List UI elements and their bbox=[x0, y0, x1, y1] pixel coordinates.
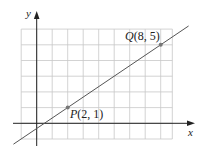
x-axis bbox=[13, 121, 195, 127]
point-q-label: Q(8, 5) bbox=[125, 29, 160, 43]
grid bbox=[21, 29, 172, 139]
point-p-coords: (2, 1) bbox=[77, 107, 103, 121]
y-axis-label: y bbox=[25, 7, 31, 19]
coordinate-plane-chart: y x P(2, 1) Q(8, 5) bbox=[0, 0, 209, 147]
point-q bbox=[159, 43, 163, 47]
point-q-coords: (8, 5) bbox=[134, 29, 160, 43]
y-axis bbox=[34, 11, 40, 146]
x-axis-label: x bbox=[187, 126, 193, 138]
point-q-letter: Q bbox=[125, 29, 134, 43]
point-p-label: P(2, 1) bbox=[69, 107, 103, 121]
y-axis-arrow-icon bbox=[34, 11, 40, 19]
